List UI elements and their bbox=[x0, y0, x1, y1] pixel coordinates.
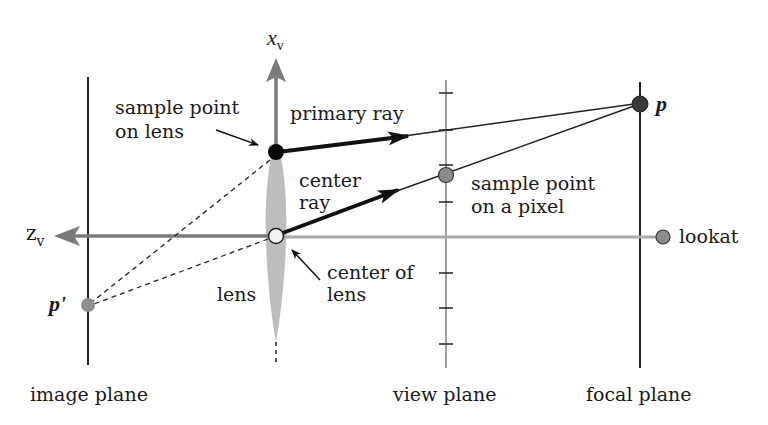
label-center-of-lens: center of lens bbox=[327, 261, 420, 305]
center-of-lens-point bbox=[269, 229, 284, 244]
primary-ray bbox=[278, 136, 408, 152]
sample-point-on-lens bbox=[268, 144, 284, 160]
sample-point-on-pixel bbox=[439, 168, 454, 183]
label-view-plane: view plane bbox=[392, 383, 496, 405]
label-p-prime: p' bbox=[47, 291, 66, 316]
point-p-prime bbox=[81, 298, 95, 312]
label-primary-ray: primary ray bbox=[290, 102, 404, 124]
point-p bbox=[632, 96, 648, 112]
z-axis-label: zv bbox=[26, 221, 45, 249]
primary-ray-thin bbox=[404, 104, 634, 136]
dashed-ray-top bbox=[92, 160, 270, 302]
label-lookat: lookat bbox=[679, 225, 739, 247]
lookat-point bbox=[656, 230, 670, 244]
label-sample-point-on-lens: sample point on lens bbox=[115, 96, 245, 142]
label-image-plane: image plane bbox=[30, 383, 148, 405]
label-sample-point-on-pixel: sample point on a pixel bbox=[471, 172, 601, 217]
center-lens-pointer-arrow bbox=[292, 250, 320, 280]
label-lens: lens bbox=[217, 283, 256, 305]
x-axis-label: xv bbox=[266, 25, 284, 53]
label-p: p bbox=[654, 91, 667, 116]
center-ray bbox=[280, 190, 398, 234]
sample-lens-pointer-arrow bbox=[216, 130, 258, 145]
view-plane bbox=[439, 80, 453, 368]
label-focal-plane: focal plane bbox=[586, 383, 692, 405]
thin-lens-diagram: xv zv sample point on lens primary ray c… bbox=[0, 0, 768, 425]
